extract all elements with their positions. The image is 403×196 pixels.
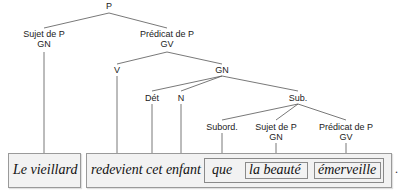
sub-predicate-text: émerveille	[318, 162, 376, 178]
subord-text: que	[212, 162, 232, 178]
node-det: Dét	[145, 93, 159, 103]
node-subord: Subord.	[206, 122, 238, 132]
node-sub-subject: Sujet de P GN	[255, 122, 297, 142]
node-sub-predicate-function: Prédicat de P	[319, 122, 373, 132]
node-predicate-function: Prédicat de P	[140, 29, 194, 39]
node-sub-predicate-category: GV	[319, 132, 373, 142]
node-subject-function: Sujet de P	[23, 29, 65, 39]
sub-subject-text: la beauté	[249, 162, 301, 178]
node-subject-category: GN	[23, 39, 65, 49]
node-noun: N	[178, 93, 185, 103]
predicate-text: redevient cet enfant	[91, 162, 201, 178]
node-sub-predicate: Prédicat de P GV	[319, 122, 373, 142]
node-p: P	[106, 1, 112, 11]
node-verb: V	[114, 65, 120, 75]
node-subject: Sujet de P GN	[23, 29, 65, 49]
sentence-period: .	[395, 162, 398, 177]
subject-text: Le vieillard	[13, 162, 77, 178]
node-gn: GN	[215, 65, 229, 75]
node-sub-subject-function: Sujet de P	[255, 122, 297, 132]
syntax-tree-diagram: P Sujet de P GN Prédicat de P GV V GN Dé…	[0, 0, 403, 196]
node-predicate: Prédicat de P GV	[140, 29, 194, 49]
node-sub-subject-category: GN	[255, 132, 297, 142]
node-predicate-category: GV	[140, 39, 194, 49]
node-sub: Sub.	[289, 93, 308, 103]
